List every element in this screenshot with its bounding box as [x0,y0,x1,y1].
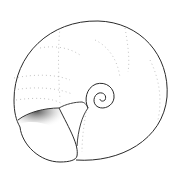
shell-illustration [0,0,180,185]
apex-spiral [86,83,114,108]
growth-lines [14,28,160,152]
body-whorl-outline [14,21,167,160]
shell-drawing [0,0,180,185]
aperture-shading [18,108,70,137]
